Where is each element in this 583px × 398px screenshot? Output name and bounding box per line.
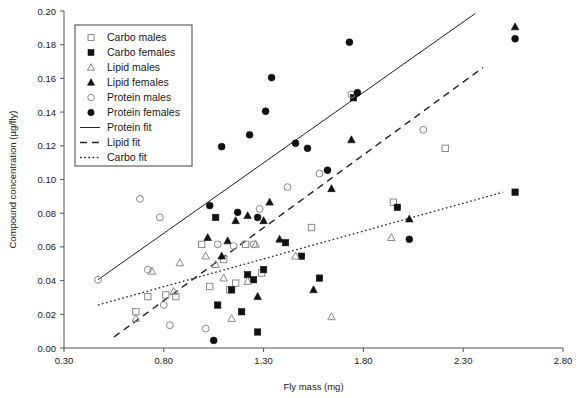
- data-point: [202, 325, 209, 332]
- data-point: [284, 184, 291, 191]
- data-point: [276, 235, 284, 242]
- data-point: [262, 108, 269, 115]
- data-point: [232, 217, 240, 224]
- data-point: [394, 204, 400, 210]
- y-axis-tick-label: 0.04: [38, 275, 57, 286]
- y-axis-tick-label: 0.18: [38, 39, 57, 50]
- y-axis-tick-label: 0.06: [38, 241, 57, 252]
- data-point: [202, 252, 210, 259]
- data-point: [218, 252, 226, 259]
- data-point: [136, 195, 143, 202]
- chart-legend: Carbo malesCarbo femalesLipid malesLipid…: [75, 25, 192, 166]
- data-point: [354, 89, 361, 96]
- data-point: [199, 241, 205, 247]
- data-point: [266, 198, 274, 205]
- data-point: [512, 189, 518, 195]
- data-point: [218, 143, 225, 150]
- data-point: [206, 202, 213, 209]
- data-point: [238, 309, 244, 315]
- legend-item-label: Protein females: [107, 106, 180, 118]
- data-point: [324, 167, 331, 174]
- data-point: [166, 322, 173, 329]
- data-point: [207, 283, 213, 289]
- legend-item-label: Lipid males: [107, 61, 160, 73]
- x-axis-title: Fly mass (mg): [283, 381, 343, 392]
- data-point: [282, 240, 288, 246]
- data-point: [228, 287, 234, 293]
- data-point: [145, 293, 151, 299]
- series-lipid-females: [204, 23, 519, 300]
- data-point: [220, 274, 228, 281]
- x-axis-tick-label: 0.80: [155, 355, 174, 366]
- data-point: [254, 329, 260, 335]
- data-point: [328, 185, 336, 192]
- x-axis-tick-label: 0.30: [55, 355, 74, 366]
- y-axis-tick-label: 0.16: [38, 73, 57, 84]
- data-point: [388, 234, 396, 241]
- legend-item-label: Protein males: [107, 91, 171, 103]
- plot-canvas: 0.000.020.040.060.080.100.120.140.160.18…: [0, 0, 583, 398]
- y-axis-tick-label: 0.02: [38, 309, 57, 320]
- data-point: [224, 237, 232, 244]
- data-point: [310, 286, 318, 293]
- series-protein-females: [206, 35, 518, 343]
- y-axis-tick-label: 0.14: [38, 107, 57, 118]
- x-axis-tick-label: 2.80: [554, 355, 573, 366]
- x-axis-tick-label: 1.30: [254, 355, 273, 366]
- legend-item-label: Carbo fit: [107, 151, 147, 163]
- data-point: [213, 214, 219, 220]
- legend-item-label: Carbo males: [107, 31, 167, 43]
- legend-item-label: Carbo females: [107, 46, 175, 58]
- data-point: [228, 314, 236, 321]
- data-point: [160, 302, 167, 309]
- data-point: [244, 212, 252, 219]
- y-axis-tick-label: 0.12: [38, 140, 57, 151]
- data-point: [511, 23, 519, 30]
- data-point: [214, 241, 221, 248]
- data-point: [348, 136, 356, 143]
- data-point: [163, 292, 169, 298]
- data-point: [246, 131, 253, 138]
- x-axis-tick-label: 1.80: [354, 355, 373, 366]
- data-point: [442, 145, 448, 151]
- data-point: [316, 170, 323, 177]
- scatter-chart: 0.000.020.040.060.080.100.120.140.160.18…: [0, 0, 583, 398]
- legend-item-label: Lipid fit: [107, 136, 140, 148]
- data-point: [316, 275, 322, 281]
- data-point: [268, 74, 275, 81]
- data-point: [254, 214, 261, 221]
- data-point: [260, 266, 266, 272]
- fit-line-carbo-fit: [98, 192, 503, 305]
- y-axis-tick-label: 0.00: [38, 343, 57, 354]
- data-point: [210, 337, 217, 344]
- legend-item-label: Lipid females: [107, 76, 169, 88]
- data-point: [234, 209, 241, 216]
- legend-filled-square: [88, 50, 94, 56]
- data-point: [406, 236, 413, 243]
- data-point: [346, 39, 353, 46]
- y-axis-title: Compound concentration (µg/fly): [7, 110, 18, 248]
- data-point: [254, 293, 262, 300]
- data-point: [215, 302, 221, 308]
- y-axis-tick-label: 0.08: [38, 208, 57, 219]
- data-point: [292, 140, 299, 147]
- data-point: [232, 280, 238, 286]
- legend-filled-circle: [88, 109, 94, 115]
- data-point: [256, 206, 263, 213]
- data-point: [304, 145, 311, 152]
- data-point: [328, 313, 336, 320]
- data-point: [512, 35, 519, 42]
- series-lipid-males: [132, 234, 395, 322]
- data-point: [250, 277, 256, 283]
- y-axis-tick-label: 0.10: [38, 174, 57, 185]
- data-point: [420, 126, 427, 133]
- data-point: [176, 259, 184, 266]
- data-point: [204, 234, 212, 241]
- data-point: [230, 243, 237, 250]
- legend-item-label: Protein fit: [107, 121, 151, 133]
- data-point: [156, 214, 163, 221]
- x-axis-tick-label: 2.30: [454, 355, 473, 366]
- data-point: [308, 224, 314, 230]
- series-carbo-males: [133, 145, 449, 315]
- y-axis-tick-label: 0.20: [38, 6, 57, 17]
